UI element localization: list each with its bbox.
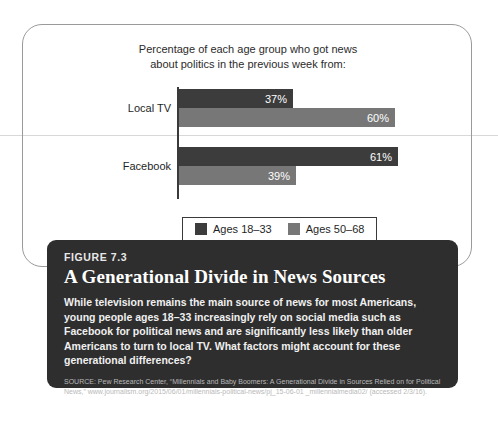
bar-value-facebook-ages-18-33: 61% xyxy=(370,151,398,163)
bar-value-local-tv-ages-50-68: 60% xyxy=(367,112,395,124)
chart-title-line-1: Percentage of each age group who got new… xyxy=(23,42,473,57)
figure-source-citation: SOURCE: Pew Research Center, “Millennial… xyxy=(64,377,442,397)
figure-caption-box: FIGURE 7.3 A Generational Divide in News… xyxy=(47,240,458,388)
chart-legend: Ages 18–33 Ages 50–68 xyxy=(182,217,377,241)
legend-swatch-icon-ages-18-33 xyxy=(195,223,207,235)
bar-value-local-tv-ages-18-33: 37% xyxy=(265,93,293,105)
bar-facebook-ages-18-33[interactable]: 61% xyxy=(179,147,398,166)
chart-plot-area: Local TV 37% 60% Facebook 61% 39% xyxy=(23,85,473,203)
figure-title: A Generational Divide in News Sources xyxy=(64,266,442,288)
legend-item-ages-18-33[interactable]: Ages 18–33 xyxy=(195,223,272,235)
bar-local-tv-ages-18-33[interactable]: 37% xyxy=(179,89,293,108)
bar-local-tv-ages-50-68[interactable]: 60% xyxy=(179,108,395,127)
figure-number: FIGURE 7.3 xyxy=(64,251,442,263)
bar-value-facebook-ages-50-68: 39% xyxy=(268,170,296,182)
category-label-facebook: Facebook xyxy=(123,160,171,172)
legend-item-ages-50-68[interactable]: Ages 50–68 xyxy=(288,223,365,235)
figure-body-text: While television remains the main source… xyxy=(64,295,442,368)
chart-card: Percentage of each age group who got new… xyxy=(22,24,472,267)
legend-swatch-icon-ages-50-68 xyxy=(288,223,300,235)
chart-title-line-2: about politics in the previous week from… xyxy=(23,57,473,72)
category-label-local-tv: Local TV xyxy=(128,102,171,114)
bar-facebook-ages-50-68[interactable]: 39% xyxy=(179,166,296,185)
legend-label-ages-18-33: Ages 18–33 xyxy=(213,223,272,235)
chart-title: Percentage of each age group who got new… xyxy=(23,42,473,72)
legend-label-ages-50-68: Ages 50–68 xyxy=(306,223,365,235)
